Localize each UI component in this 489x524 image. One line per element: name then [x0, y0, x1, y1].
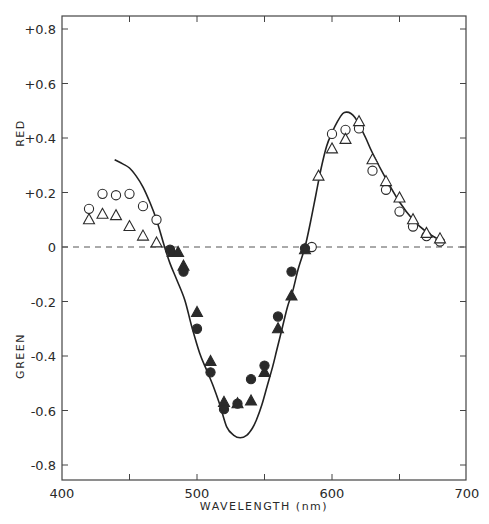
- y-tick-label: -0.8: [31, 458, 56, 473]
- open-triangle-marker: [327, 143, 338, 153]
- open-circle-marker: [368, 166, 377, 175]
- open-circle-marker: [111, 191, 120, 200]
- y-tick-label: -0.6: [31, 404, 56, 419]
- open-triangle-marker: [84, 214, 95, 224]
- filled-triangle-marker: [205, 355, 216, 365]
- filled-triangle-marker: [286, 290, 297, 300]
- open-circle-marker: [327, 129, 336, 138]
- filled-triangle-marker: [192, 306, 203, 316]
- x-axis-label: WAVELENGTH (nm): [200, 500, 328, 513]
- plot-frame: [62, 16, 466, 480]
- filled-circle-marker: [246, 375, 255, 384]
- x-tick-label: 500: [185, 486, 210, 501]
- open-triangle-marker: [111, 210, 122, 220]
- open-circle-marker: [381, 185, 390, 194]
- y-tick-label: +0.6: [24, 77, 56, 92]
- y-tick-label: -0.4: [31, 349, 56, 364]
- y-axis-label-green: GREEN: [14, 333, 27, 379]
- x-tick-label: 700: [455, 486, 480, 501]
- chart-svg: 400500600700+0.8+0.6+0.4+0.20-0.2-0.4-0.…: [0, 0, 489, 524]
- open-triangle-marker: [313, 170, 324, 180]
- open-triangle-marker: [124, 221, 135, 231]
- open-triangle-marker: [138, 230, 149, 240]
- open-triangle-marker: [97, 208, 108, 218]
- filled-circle-marker: [273, 312, 282, 321]
- open-circle-marker: [395, 207, 404, 216]
- open-triangle-marker: [340, 133, 351, 143]
- open-triangle-marker: [151, 237, 162, 247]
- open-circle-marker: [84, 204, 93, 213]
- filled-triangle-marker: [219, 396, 230, 406]
- y-tick-label: +0.2: [24, 186, 56, 201]
- open-circle-marker: [98, 189, 107, 198]
- chart-container: 400500600700+0.8+0.6+0.4+0.20-0.2-0.4-0.…: [0, 0, 489, 524]
- filled-circle-marker: [192, 324, 201, 333]
- filled-triangle-marker: [246, 395, 257, 405]
- filled-circle-marker: [287, 267, 296, 276]
- open-triangle-marker: [367, 154, 378, 164]
- filled-circle-marker: [206, 368, 215, 377]
- x-tick-label: 600: [320, 486, 345, 501]
- open-circle-marker: [138, 202, 147, 211]
- y-tick-label: +0.8: [24, 22, 56, 37]
- open-triangle-marker: [381, 176, 392, 186]
- x-tick-label: 400: [50, 486, 75, 501]
- y-tick-label: -0.2: [31, 295, 56, 310]
- filled-triangle-marker: [178, 260, 189, 270]
- axis-ticks: [62, 16, 466, 480]
- theoretical-curve-line: [115, 112, 440, 438]
- data-markers: [84, 116, 446, 414]
- open-circle-marker: [125, 189, 134, 198]
- y-tick-label: +0.4: [24, 131, 56, 146]
- y-tick-label: 0: [48, 240, 56, 255]
- y-axis-label-red: RED: [14, 119, 27, 147]
- open-circle-marker: [152, 215, 161, 224]
